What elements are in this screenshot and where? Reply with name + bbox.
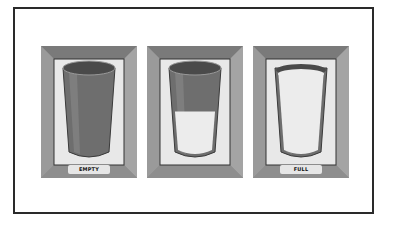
frame-bevel-top xyxy=(41,46,137,59)
full-glass-icon xyxy=(253,46,349,178)
panel-empty-glass: EMPTY xyxy=(41,46,137,178)
frame-bevel-left xyxy=(147,46,160,178)
panel-label-empty: EMPTY xyxy=(68,165,110,174)
liquid xyxy=(278,71,324,154)
liquid-surface xyxy=(278,69,324,79)
frame-bevel-right xyxy=(230,46,243,178)
frame-bevel-left xyxy=(41,46,54,178)
frame-bevel-right xyxy=(336,46,349,178)
glass-rim xyxy=(63,61,115,75)
panel-label-full: FULL xyxy=(280,165,322,174)
frame-bevel-bottom xyxy=(147,165,243,178)
liquid xyxy=(175,112,215,155)
glass-rim xyxy=(169,61,221,75)
half-full-glass-icon xyxy=(147,46,243,178)
panel-half-glass xyxy=(147,46,243,178)
panel-full-glass: FULL xyxy=(253,46,349,178)
empty-glass-icon xyxy=(41,46,137,178)
frame-bevel-right xyxy=(124,46,137,178)
frame-bevel-left xyxy=(253,46,266,178)
frame-bevel-top xyxy=(253,46,349,59)
frame-bevel-top xyxy=(147,46,243,59)
